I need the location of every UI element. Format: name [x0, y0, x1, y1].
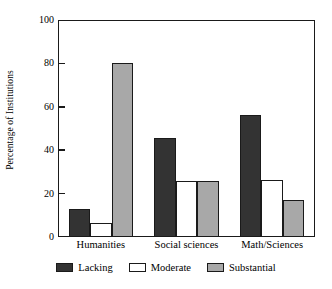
- legend-item: Substantial: [207, 262, 276, 273]
- y-axis-title-text: Percentage of Institutions: [5, 70, 15, 170]
- legend-item: Moderate: [129, 262, 191, 273]
- legend-item: Lacking: [56, 262, 112, 273]
- bar: [197, 181, 219, 237]
- bar: [283, 200, 305, 237]
- bar: [240, 115, 262, 237]
- legend-swatch-icon: [129, 263, 146, 272]
- legend-label: Lacking: [78, 262, 112, 273]
- legend-label: Substantial: [229, 262, 276, 273]
- x-axis-label: Social sciences: [155, 239, 219, 250]
- y-axis-tick-label: 40: [44, 143, 54, 156]
- bar: [69, 209, 91, 237]
- bar-chart: Percentage of Institutions 020406080100 …: [0, 0, 332, 289]
- bar: [90, 223, 112, 237]
- x-axis-label: Math/Sciences: [241, 239, 303, 250]
- y-axis-tick-label: 60: [44, 100, 54, 113]
- y-axis-title: Percentage of Institutions: [0, 0, 20, 240]
- x-axis-label: Humanities: [77, 239, 125, 250]
- chart-legend: LackingModerateSubstantial: [0, 262, 332, 273]
- bars-layer: [58, 20, 315, 237]
- legend-swatch-icon: [207, 263, 224, 272]
- y-axis-tick-label: 80: [44, 56, 54, 69]
- y-axis-tick-label: 20: [44, 187, 54, 200]
- bar: [154, 138, 176, 237]
- bar: [176, 181, 198, 237]
- legend-swatch-icon: [56, 263, 73, 272]
- y-axis-tick-label: 100: [39, 13, 54, 26]
- bar: [112, 63, 134, 237]
- bar: [261, 180, 283, 238]
- y-axis-tick-label: 0: [49, 230, 54, 243]
- legend-label: Moderate: [151, 262, 191, 273]
- x-axis-labels: HumanitiesSocial sciencesMath/Sciences: [58, 239, 315, 255]
